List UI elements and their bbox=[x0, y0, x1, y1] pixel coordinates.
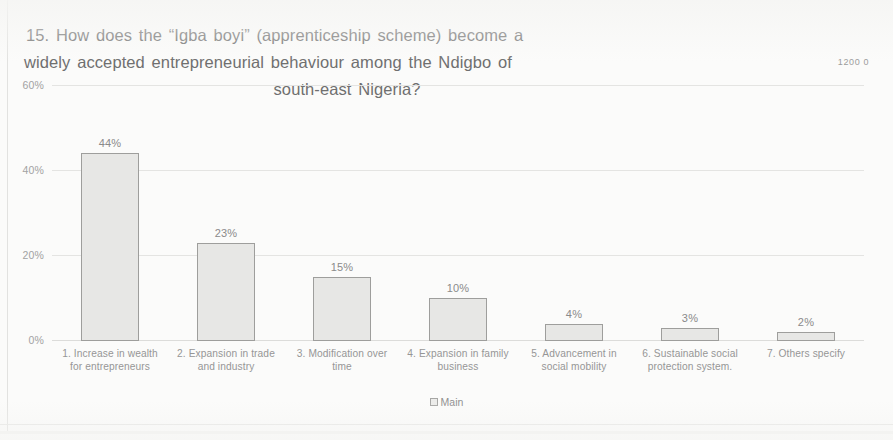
bar-value-label: 23% bbox=[168, 227, 284, 239]
bar-slot: 44% bbox=[52, 85, 168, 341]
y-axis-tick-label: 60% bbox=[0, 79, 44, 91]
chart-legend: Main bbox=[0, 396, 893, 408]
bar-slot: 10% bbox=[400, 85, 516, 341]
y-axis-tick-label: 0% bbox=[0, 334, 44, 346]
bar[interactable] bbox=[429, 298, 487, 341]
chart-title-line-1: 15. How does the “Igba boyi” (apprentice… bbox=[22, 22, 672, 49]
bar-slot: 23% bbox=[168, 85, 284, 341]
y-axis-tick-text: 60% bbox=[22, 79, 44, 91]
bar-slot: 15% bbox=[284, 85, 400, 341]
y-axis-tick-text: 0% bbox=[28, 334, 44, 346]
x-axis-category-label: 4. Expansion in family business bbox=[400, 347, 516, 397]
y-axis-tick-text: 20% bbox=[22, 249, 44, 261]
bar-value-label: 4% bbox=[516, 308, 632, 320]
bar[interactable] bbox=[661, 328, 719, 341]
x-axis-category-label: 5. Advancement in social mobility bbox=[516, 347, 632, 397]
bar[interactable] bbox=[313, 277, 371, 341]
y-axis-tick-label: 20% bbox=[0, 249, 44, 261]
bar-value-label: 10% bbox=[400, 282, 516, 294]
x-axis-category-label: 2. Expansion in trade and industry bbox=[168, 347, 284, 397]
x-axis-category-label: 7. Others specify bbox=[748, 347, 864, 397]
bar-series-main: 44%23%15%10%4%3%2% bbox=[52, 85, 864, 341]
x-axis-category-label: 3. Modification over time bbox=[284, 347, 400, 397]
y-axis-tick-label: 40% bbox=[0, 164, 44, 176]
legend-label: Main bbox=[441, 396, 464, 408]
bar-slot: 2% bbox=[748, 85, 864, 341]
bar[interactable] bbox=[777, 332, 835, 341]
bar-value-label: 2% bbox=[748, 316, 864, 328]
bar-slot: 4% bbox=[516, 85, 632, 341]
bar-slot: 3% bbox=[632, 85, 748, 341]
chart-title-line-2: widely accepted entrepreneurial behaviou… bbox=[22, 49, 672, 76]
x-axis-labels: 1. Increase in wealth for entrepreneurs2… bbox=[52, 347, 864, 397]
plot-area: 44%23%15%10%4%3%2% bbox=[52, 85, 864, 341]
bar[interactable] bbox=[197, 243, 255, 341]
y-axis-tick-text: 40% bbox=[22, 164, 44, 176]
chart-screenshot: 15. How does the “Igba boyi” (apprentice… bbox=[0, 0, 893, 440]
x-axis-category-label: 6. Sustainable social protection system. bbox=[632, 347, 748, 397]
x-axis-category-label: 1. Increase in wealth for entrepreneurs bbox=[52, 347, 168, 397]
bar[interactable] bbox=[81, 153, 139, 341]
bar[interactable] bbox=[545, 324, 603, 341]
bar-value-label: 44% bbox=[52, 137, 168, 149]
bar-value-label: 15% bbox=[284, 261, 400, 273]
page-edge-bottom bbox=[0, 424, 893, 425]
page-edge-bottom-shadow bbox=[0, 431, 893, 434]
y-axis: 60% 40% 20% 0% bbox=[0, 85, 50, 341]
scan-artifact-text: 1200 0 bbox=[838, 57, 869, 67]
bar-value-label: 3% bbox=[632, 312, 748, 324]
legend-swatch-icon bbox=[430, 398, 438, 406]
